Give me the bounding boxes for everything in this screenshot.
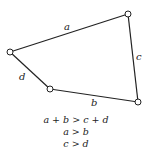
condition-2: a > b [0,126,152,138]
condition-1: a + b > c + d [0,114,152,126]
label-c: c [136,51,142,62]
node-left [7,49,13,55]
node-bottom-right [135,99,141,105]
edge-a [10,14,128,52]
edge-d [10,52,50,89]
label-d: d [19,71,25,82]
label-b: b [91,97,97,108]
quadrilateral-diagram: a c b d [0,0,152,110]
node-bottom-left [47,86,53,92]
label-a: a [64,21,70,32]
condition-3: c > d [0,138,152,150]
conditions: a + b > c + d a > b c > d [0,114,152,150]
node-top-right [125,11,131,17]
